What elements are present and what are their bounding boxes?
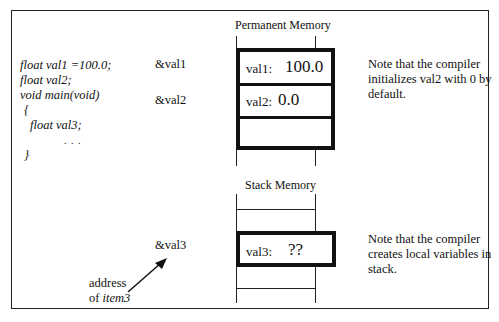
cell-label: val3: <box>246 244 272 260</box>
stack-memory-cell-val3: val3: ?? <box>236 231 336 267</box>
memory-cell-val1: val1: 100.0 <box>240 52 331 83</box>
pointer-label-line1: address <box>89 276 127 291</box>
cell-value: 100.0 <box>285 57 323 77</box>
permanent-memory-block: val1: 100.0 val2: 0.0 <box>236 48 335 150</box>
cell-label: val2: <box>246 94 272 110</box>
code-line-5: float val3; <box>30 118 82 133</box>
permanent-memory-note: Note that the compiler initializes val2 … <box>368 57 493 102</box>
cell-value: 0.0 <box>278 90 299 110</box>
memory-cell-empty <box>240 119 331 146</box>
code-line-2: float val2; <box>20 73 72 88</box>
code-line-3: void main(void) <box>20 88 100 103</box>
address-val2: &val2 <box>155 93 186 108</box>
address-val3: &val3 <box>155 238 186 253</box>
cell-label: val1: <box>246 61 272 77</box>
stack-memory-note: Note that the compiler creates local var… <box>368 232 493 277</box>
memory-cell-val2: val2: 0.0 <box>240 86 331 116</box>
code-line-1: float val1 =100.0; <box>20 58 111 73</box>
stack-memory-title: Stack Memory <box>245 178 316 193</box>
pointer-arrow-icon <box>125 255 170 295</box>
cell-value: ?? <box>288 240 303 260</box>
code-line-6: . . . <box>64 133 82 148</box>
address-val1: &val1 <box>155 57 186 72</box>
code-line-7: } <box>24 148 29 163</box>
stack-frame-top-line <box>236 209 316 210</box>
code-line-4: { <box>24 103 29 118</box>
permanent-memory-title: Permanent Memory <box>235 18 331 33</box>
stack-frame-bottom-line <box>236 288 316 289</box>
